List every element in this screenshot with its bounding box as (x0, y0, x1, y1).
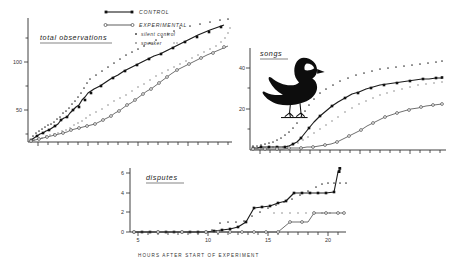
panel3-ytick-2: 2 (121, 209, 124, 215)
panel2-ytick-20: 20 (239, 106, 245, 112)
panel3-xtick-10: 10 (205, 237, 211, 243)
legend-item-silent-control: silent control (135, 32, 176, 37)
legend-item-speaker: speaker (135, 41, 178, 46)
panel1-ytick-100: 100 (13, 59, 22, 65)
panel3-ytick-4: 4 (121, 190, 124, 196)
x-axis-label: HOURS AFTER START OF EXPERIMENT (138, 253, 259, 258)
legend-item-control: CONTROL (105, 9, 170, 15)
panel1-experimental-curve (31, 46, 228, 141)
panel3-xtick-5: 5 (137, 237, 140, 243)
panel1-ytick-50: 50 (16, 107, 22, 113)
panel3-xtick-20: 20 (325, 237, 331, 243)
panel3-ytick-6: 6 (121, 170, 124, 176)
panel2-ytick-40: 40 (239, 65, 245, 71)
panel3-silent-control-dots (211, 182, 347, 231)
great-tit-silhouette-icon (263, 58, 325, 118)
panel-disputes: 6 4 2 0 (108, 162, 358, 267)
panel1-title: total observations (40, 33, 107, 42)
legend-label-control: CONTROL (139, 9, 169, 15)
legend-marker-silent-dot (135, 33, 137, 35)
panel2-experimental-curve (253, 104, 442, 149)
legend-label-experimental: EXPERIMENTAL (139, 22, 187, 28)
panel1-xticks (38, 142, 228, 146)
panel3-xtick-15: 15 (265, 237, 271, 243)
panel3-ytick-0: 0 (121, 229, 124, 235)
legend-label-silent-control: silent control (141, 32, 176, 37)
panel-songs: 40 20 (238, 38, 452, 160)
legend: CONTROL EXPERIMENTAL silent control spea… (100, 4, 230, 48)
figure-root: 50 100 (0, 0, 452, 269)
legend-marker-speaker-dot (135, 42, 137, 44)
panel2-title: songs (260, 49, 282, 58)
legend-marker-filled-square (105, 11, 108, 14)
panel3-experimental-curve (134, 213, 344, 232)
legend-item-experimental: EXPERIMENTAL (104, 22, 187, 28)
panel3-experimental-markers (133, 212, 346, 234)
legend-label-speaker: speaker (141, 41, 162, 46)
panel3-xticks (138, 232, 338, 236)
panel2-experimental-markers (252, 103, 444, 151)
legend-marker-open-circle (104, 24, 107, 27)
panel3-title: disputes (146, 173, 178, 182)
panel2-xticks (260, 150, 440, 154)
